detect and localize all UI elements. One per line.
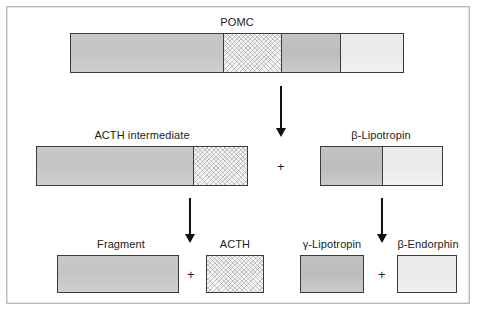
fragment-label: Fragment [66, 238, 176, 251]
beta-endorphin-label: β-Endorphin [392, 238, 464, 251]
pomc-bar [70, 33, 404, 73]
beta-lipotropin-segment-gamma-lipotropin [321, 147, 382, 185]
pomc-label: POMC [187, 16, 287, 29]
acth-intermediate-bar [36, 146, 248, 186]
plus-bottom-left: + [187, 268, 195, 281]
beta-endorphin-box [397, 255, 457, 293]
acth-intermediate-segment-fragment [37, 147, 193, 185]
acth-label: ACTH [206, 238, 264, 251]
fragment-box [57, 255, 179, 293]
arrow-acth-intermediate-stem [189, 198, 191, 234]
beta-lipotropin-label: β-Lipotropin [331, 129, 431, 142]
acth-intermediate-segment-acth [193, 147, 247, 185]
arrow-beta-lipotropin-stem [381, 198, 383, 234]
arrow-beta-lipotropin-head [377, 234, 387, 243]
acth-intermediate-label: ACTH intermediate [92, 129, 192, 142]
gamma-lipotropin-label: γ-Lipotropin [293, 238, 371, 251]
beta-lipotropin-segment-beta-endorphin [382, 147, 442, 185]
arrow-acth-intermediate-head [185, 234, 195, 243]
pomc-segment-gamma-lipotropin [281, 34, 340, 72]
gamma-lipotropin-box [300, 255, 364, 293]
pomc-cleavage-diagram: POMC ACTH intermediate + β-Lipotropin Fr… [0, 0, 477, 312]
plus-middle: + [277, 160, 285, 173]
arrow-pomc-to-products-stem [280, 86, 282, 128]
beta-lipotropin-bar [320, 146, 443, 186]
acth-box [206, 255, 264, 293]
arrow-pomc-to-products-head [276, 128, 286, 137]
plus-bottom-right: + [378, 268, 386, 281]
pomc-segment-fragment [71, 34, 223, 72]
pomc-segment-acth [223, 34, 281, 72]
pomc-segment-beta-endorphin [340, 34, 403, 72]
